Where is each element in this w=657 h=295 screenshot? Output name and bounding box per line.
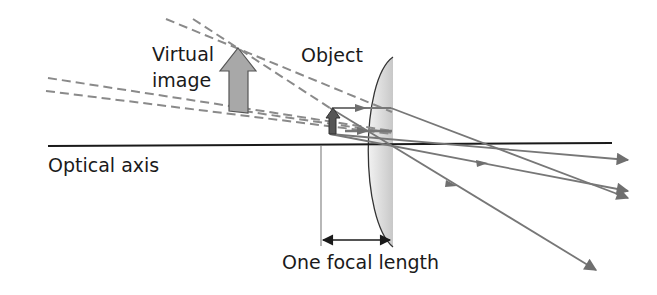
object-label: Object bbox=[301, 44, 363, 66]
virtual-image-arrow bbox=[220, 48, 256, 113]
optical-axis-label: Optical axis bbox=[48, 154, 159, 176]
virtual-image-label: Virtual bbox=[152, 43, 214, 65]
virtual-rays bbox=[46, 19, 393, 134]
convex-lens bbox=[368, 57, 393, 247]
focal-length-label: One focal length bbox=[282, 251, 439, 273]
optical-axis-line bbox=[48, 143, 612, 146]
lens-diagram: Virtual image Object Optical axis One fo… bbox=[0, 0, 657, 295]
virtual-image-label-2: image bbox=[152, 69, 211, 91]
